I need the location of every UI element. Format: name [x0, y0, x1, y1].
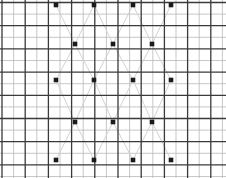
lattice-point — [92, 78, 97, 83]
lattice-point — [54, 158, 59, 163]
lattice-point — [73, 120, 78, 125]
grid-lattice-svg — [0, 0, 226, 178]
lattice-point — [111, 120, 116, 125]
lattice-point — [54, 3, 59, 8]
lattice-point — [131, 3, 136, 8]
lattice-point — [92, 158, 97, 163]
lattice-point — [111, 42, 116, 47]
lattice-point — [73, 42, 78, 47]
lattice-point — [169, 158, 174, 163]
lattice-point — [92, 3, 97, 8]
lattice-point — [169, 3, 174, 8]
lattice-point — [150, 120, 155, 125]
background-rect — [0, 0, 226, 178]
lattice-point — [131, 158, 136, 163]
lattice-point — [54, 78, 59, 83]
lattice-point — [131, 78, 136, 83]
figure-canvas — [0, 0, 226, 178]
lattice-point — [150, 42, 155, 47]
lattice-point — [169, 78, 174, 83]
